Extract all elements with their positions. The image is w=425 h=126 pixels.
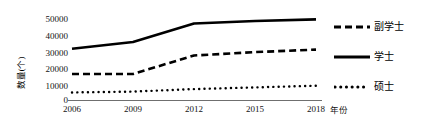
y-tick-label: 20000 — [24, 65, 68, 74]
y-tick-label: 40000 — [24, 32, 68, 41]
x-axis-tick-labels: 2006 2009 2012 2015 2018 — [68, 103, 322, 119]
series-canvas — [72, 16, 316, 100]
legend-label: 硕士 — [374, 81, 394, 93]
x-tick-label: 2015 — [233, 103, 277, 115]
legend-label: 学士 — [374, 51, 394, 63]
x-tick-label: 2006 — [50, 103, 94, 115]
series-line — [72, 19, 316, 48]
legend: 副学士 学士 硕士 — [334, 14, 425, 104]
series-line — [72, 50, 316, 74]
legend-item-bachelor[interactable]: 学士 — [334, 48, 394, 66]
series-line — [72, 86, 316, 93]
legend-swatch-dashed-icon — [334, 22, 370, 32]
plot-area — [72, 16, 316, 100]
line-chart: 数量(个) 50000 40000 30000 20000 10000 0 20… — [0, 0, 425, 126]
legend-swatch-dotted-icon — [334, 82, 370, 92]
legend-item-associate[interactable]: 副学士 — [334, 18, 404, 36]
x-tick-label: 2009 — [111, 103, 155, 115]
x-tick-label: 2012 — [172, 103, 216, 115]
legend-label: 副学士 — [374, 21, 404, 33]
x-axis-title: 年份 — [330, 104, 348, 116]
y-tick-label: 50000 — [24, 15, 68, 24]
legend-swatch-solid-icon — [334, 52, 370, 62]
legend-item-master[interactable]: 硕士 — [334, 78, 394, 96]
y-tick-label: 10000 — [24, 82, 68, 91]
x-axis-line — [68, 100, 322, 101]
y-tick-label: 30000 — [24, 49, 68, 58]
